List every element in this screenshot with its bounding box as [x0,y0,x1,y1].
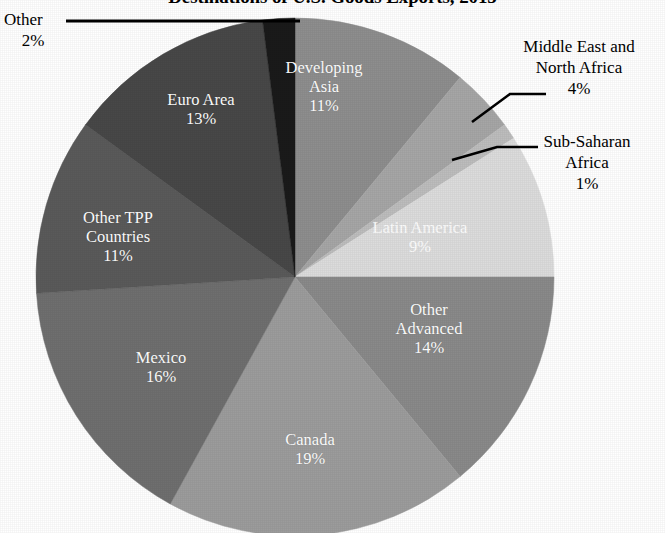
slice-label-other-tpp-line1: Other TPP [83,208,153,227]
slice-label-other-advanced-line1: Other [410,300,448,319]
slice-label-euro-area-percent: 13% [126,109,276,128]
slice-label-developing-asia: Developing Asia 11% [264,58,384,115]
callout-label-sub-saharan-line2: Africa [565,153,608,172]
slice-label-developing-asia-line1: Developing [286,58,363,77]
callout-label-middle-east-line1: Middle East and [523,37,634,56]
slice-label-developing-asia-percent: 11% [264,96,384,115]
slice-label-euro-area-line1: Euro Area [167,90,234,109]
slice-label-other-tpp-line2: Countries [86,227,150,246]
slice-label-canada-line1: Canada [285,430,334,449]
callout-label-middle-east-percent: 4% [497,78,661,99]
callout-label-other: Other 2% [4,9,74,51]
callout-label-middle-east: Middle East and North Africa 4% [497,36,661,99]
callout-label-sub-saharan-line1: Sub-Saharan [544,132,631,151]
slice-label-latin-america-percent: 9% [345,237,495,256]
slice-label-latin-america: Latin America 9% [345,218,495,256]
slice-label-developing-asia-line2: Asia [309,77,339,96]
slice-label-mexico: Mexico 16% [96,348,226,386]
callout-label-sub-saharan: Sub-Saharan Africa 1% [513,131,661,194]
slice-label-other-advanced-percent: 14% [354,338,504,357]
callout-label-middle-east-line2: North Africa [536,58,622,77]
slice-label-other-tpp: Other TPP Countries 11% [43,208,193,265]
callout-label-sub-saharan-percent: 1% [513,173,661,194]
chart-canvas: Destinations of U.S. Goods Exports, 2015… [0,0,665,533]
slice-label-other-advanced: Other Advanced 14% [354,300,504,357]
slice-label-canada-percent: 19% [240,449,380,468]
slice-label-mexico-line1: Mexico [136,348,186,367]
slice-label-mexico-percent: 16% [96,367,226,386]
slice-label-other-advanced-line2: Advanced [396,319,463,338]
slice-label-canada: Canada 19% [240,430,380,468]
callout-label-other-percent: 2% [4,30,62,51]
slice-label-latin-america-line1: Latin America [373,218,468,237]
slice-label-euro-area: Euro Area 13% [126,90,276,128]
callout-label-other-line1: Other [4,10,43,29]
slice-label-other-tpp-percent: 11% [43,246,193,265]
